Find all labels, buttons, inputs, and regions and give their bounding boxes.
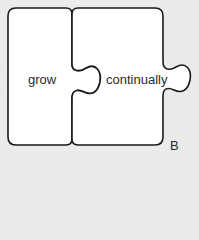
piece-word-continually: continually: [106, 73, 167, 86]
piece-word-grow: grow: [28, 73, 56, 86]
diagram-label: B: [170, 139, 179, 152]
